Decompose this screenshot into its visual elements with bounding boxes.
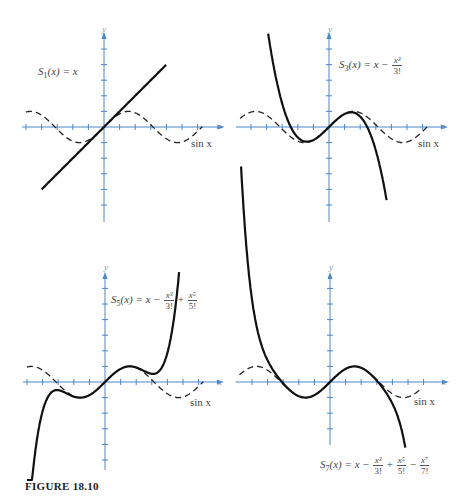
formula-s1: S1(x) = x xyxy=(38,65,78,80)
formula-s5: S5(x) = x − x³3! + x⁵5! xyxy=(111,290,198,311)
sine-label-2: sin x xyxy=(418,137,439,149)
y-axis-label-1: y xyxy=(102,24,106,34)
sine-label-3: sin x xyxy=(190,396,211,408)
formula-s7: S7(x) = x − x³3! + x⁵5! − x⁷7! xyxy=(320,455,430,476)
y-axis-label-4: y xyxy=(329,262,333,272)
sine-label-4: sin x xyxy=(414,395,435,407)
x-axis-label-4: x xyxy=(442,377,446,387)
term-x3-3: x³3! xyxy=(392,55,402,76)
x-axis-label-3: x xyxy=(218,377,222,387)
y-axis-arrow-icon xyxy=(103,272,108,279)
y-axis-label-3: y xyxy=(104,262,108,272)
formula-s3: S3(x) = x − x³3! xyxy=(339,55,403,76)
y-axis-arrow-icon xyxy=(328,272,333,279)
y-axis-label-2: y xyxy=(328,24,332,34)
figure-caption: FIGURE 18.10 xyxy=(25,480,99,492)
taylor-polynomial-curve xyxy=(241,167,405,448)
sine-label-1: sin x xyxy=(191,137,212,149)
x-axis-label-1: x xyxy=(217,121,221,131)
x-axis-label-2: x xyxy=(441,121,445,131)
